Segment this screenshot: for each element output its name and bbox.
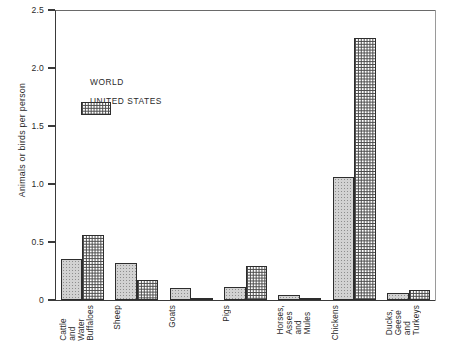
category-label-line: Water	[78, 305, 86, 341]
category-label-ducks-geese-and-turkeys: Ducks,GeeseandTurkeys	[386, 305, 421, 335]
y-tick-0.5	[48, 241, 55, 242]
category-label-line: Chickens	[332, 305, 340, 340]
y-tick-label-2.5: 2.5	[0, 5, 44, 15]
legend-item-world: WORLD	[81, 77, 162, 87]
category-label-line: Sheep	[114, 305, 122, 330]
y-tick-1.5	[48, 125, 55, 126]
category-label-cattle-and-water-buffaloes: CattleandWaterBuffaloes	[60, 305, 95, 341]
y-tick-2.5	[48, 9, 55, 10]
bar-world-sheep	[115, 263, 137, 300]
bar-world-horses-asses-and-mules	[278, 295, 300, 300]
bar-united-states-goats	[191, 298, 213, 300]
y-tick-0	[48, 299, 55, 300]
category-label-line: Cattle	[60, 305, 68, 341]
bar-united-states-chickens	[354, 38, 376, 300]
category-label-goats: Goats	[169, 305, 177, 328]
category-label-pigs: Pigs	[223, 305, 231, 322]
category-label-line: Mules	[304, 305, 312, 335]
category-label-line: Buffaloes	[87, 305, 95, 341]
bar-united-states-sheep	[137, 280, 159, 300]
bar-united-states-cattle-and-water-buffaloes	[82, 235, 104, 300]
bar-world-ducks-geese-and-turkeys	[387, 293, 409, 300]
category-label-line: Turkeys	[413, 305, 421, 335]
category-label-line: Pigs	[223, 305, 231, 322]
bar-world-goats	[170, 288, 192, 300]
y-tick-label-0: 0	[0, 295, 44, 305]
bar-united-states-horses-asses-and-mules	[300, 298, 322, 300]
y-axis-title: Animals or birds per person	[17, 30, 27, 250]
bar-chart-figure: 00.51.01.52.02.5 Animals or birds per pe…	[0, 0, 449, 354]
legend-label-world: WORLD	[90, 77, 124, 87]
x-axis-line	[55, 300, 436, 301]
category-label-line: Goats	[169, 305, 177, 328]
bar-world-pigs	[224, 287, 246, 300]
legend-swatch-united-states	[81, 102, 111, 115]
y-tick-1.0	[48, 183, 55, 184]
category-label-line: and	[69, 305, 77, 341]
y-tick-2.0	[48, 67, 55, 68]
category-label-horses-asses-and-mules: Horses,AssesandMules	[277, 305, 312, 335]
legend-item-united-states: UNITED STATES	[81, 96, 162, 106]
category-label-chickens: Chickens	[332, 305, 340, 340]
bar-world-chickens	[333, 177, 355, 300]
bar-united-states-pigs	[246, 266, 268, 300]
bar-world-cattle-and-water-buffaloes	[61, 259, 83, 300]
category-label-sheep: Sheep	[114, 305, 122, 330]
bars-layer	[55, 10, 436, 300]
bar-united-states-ducks-geese-and-turkeys	[409, 290, 431, 300]
chart-legend: WORLD UNITED STATES	[81, 77, 162, 115]
